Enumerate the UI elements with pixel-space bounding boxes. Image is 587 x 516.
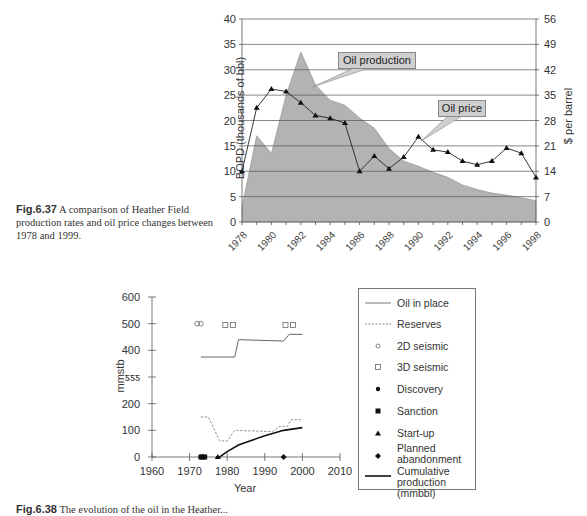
bottom-y-tick-label: 100: [122, 424, 140, 436]
legend-label: 2D seismic: [397, 341, 448, 352]
bottom-y-tick-label: 600: [122, 291, 140, 303]
reserves-line: [201, 417, 303, 441]
legend-label: 3D seismic: [397, 362, 448, 373]
3d-seismic-marker: [223, 323, 228, 328]
legend-label: Cumulative production (mmbbl): [397, 466, 477, 499]
bottom-x-tick-label: 2010: [328, 465, 352, 477]
chart-legend: Oil in place Reserves 2D seismic 3D seis…: [358, 288, 476, 490]
bottom-x-axis-title: Year: [215, 482, 275, 494]
figure-638-label: Fig.6.38: [16, 503, 57, 515]
3d-seismic-marker: [230, 323, 235, 328]
bottom-x-tick-label: 1990: [253, 465, 277, 477]
legend-label-line-2: abandonment: [397, 453, 461, 465]
thick-line-icon: [365, 469, 391, 483]
filled-diamond-icon: [365, 449, 391, 463]
filled-circle-icon: [365, 382, 391, 396]
legend-label: Sanction: [397, 406, 438, 417]
figure-638-text: The evolution of the oil in the Heather.…: [57, 504, 228, 515]
open-square-icon: [365, 360, 391, 374]
figure-638-caption: Fig.6.38 The evolution of the oil in the…: [16, 503, 576, 516]
legend-label: Planned abandonment: [397, 443, 461, 465]
filled-triangle-icon: [365, 426, 391, 440]
legend-label: Start-up: [397, 428, 434, 439]
bottom-x-tick-label: 1960: [140, 465, 164, 477]
solid-line-icon: [365, 296, 391, 310]
bottom-y-tick-label: ƽƽƽ: [125, 371, 140, 383]
filled-square-icon: [365, 404, 391, 418]
bottom-x-tick-label: 1980: [215, 465, 239, 477]
sanction-marker: [202, 455, 207, 460]
bottom-y-tick-label: 500: [122, 318, 140, 330]
cumulative-production-line: [216, 428, 302, 457]
3d-seismic-marker: [283, 323, 288, 328]
legend-label: Reserves: [397, 319, 441, 330]
bottom-x-tick-label: 2000: [290, 465, 314, 477]
oil-in-place-line: [201, 334, 303, 357]
planned-abandonment-marker: [281, 454, 287, 460]
3d-seismic-marker: [291, 323, 296, 328]
legend-label-line-2: production (mmbbl): [397, 476, 446, 499]
bottom-x-tick-label: 1970: [177, 465, 201, 477]
legend-label: Oil in place: [397, 298, 449, 309]
dashed-line-icon: [365, 317, 391, 331]
legend-label: Discovery: [397, 384, 443, 395]
open-circle-icon: [365, 339, 391, 353]
bottom-y-tick-label: 0: [134, 451, 140, 463]
bottom-y-axis-title: mmstb: [114, 346, 126, 406]
